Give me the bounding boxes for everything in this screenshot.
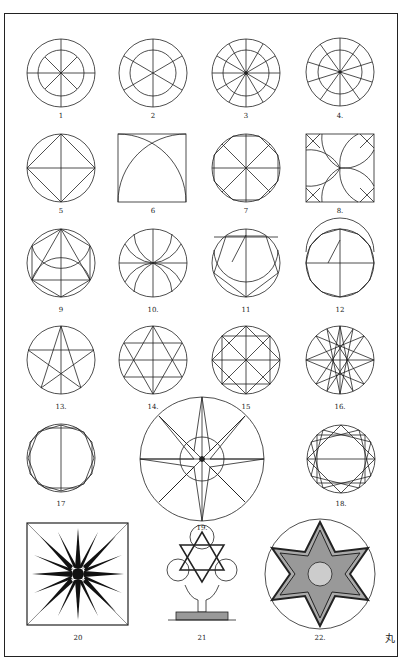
figure-5 bbox=[27, 134, 95, 202]
figure-19 bbox=[140, 397, 264, 521]
figure-label-5: 5 bbox=[59, 207, 63, 215]
figure-21 bbox=[167, 525, 237, 620]
figures-canvas bbox=[0, 0, 409, 664]
figure-9 bbox=[27, 229, 95, 297]
figure-label-4: 4. bbox=[337, 112, 344, 120]
figure-label-6: 6 bbox=[151, 207, 155, 215]
figure-label-11: 11 bbox=[242, 306, 251, 314]
figure-10 bbox=[119, 229, 187, 297]
figure-label-10: 10. bbox=[147, 306, 158, 314]
figure-label-3: 3 bbox=[244, 112, 248, 120]
figure-label-17: 17 bbox=[57, 500, 66, 508]
figure-7 bbox=[212, 134, 280, 202]
figure-14 bbox=[119, 326, 187, 394]
figure-label-13: 13. bbox=[55, 403, 66, 411]
figure-label-12: 12 bbox=[336, 306, 345, 314]
figure-4 bbox=[306, 38, 374, 106]
artist-monogram: 丸 bbox=[385, 630, 395, 645]
figure-label-18: 18. bbox=[335, 500, 346, 508]
figure-label-7: 7 bbox=[244, 207, 248, 215]
figure-12 bbox=[306, 218, 374, 297]
figure-label-22: 22. bbox=[314, 634, 325, 642]
figure-label-16: 16. bbox=[334, 403, 345, 411]
figure-label-19: 19. bbox=[196, 524, 207, 532]
figure-13 bbox=[27, 326, 95, 394]
figure-15 bbox=[212, 326, 280, 394]
figure-16 bbox=[306, 326, 374, 394]
figure-11 bbox=[212, 229, 280, 297]
figure-8 bbox=[306, 134, 374, 202]
figure-22 bbox=[265, 519, 375, 629]
figure-label-14: 14. bbox=[147, 403, 158, 411]
figure-label-20: 20 bbox=[74, 634, 83, 642]
figure-label-8: 8. bbox=[337, 207, 344, 215]
figure-label-9: 9 bbox=[59, 306, 63, 314]
figure-20 bbox=[27, 523, 128, 625]
figure-1 bbox=[27, 39, 95, 107]
figure-17 bbox=[27, 424, 95, 492]
figure-label-21: 21 bbox=[198, 634, 207, 642]
figure-18 bbox=[307, 425, 375, 493]
figure-6 bbox=[118, 134, 186, 202]
figure-label-15: 15 bbox=[242, 403, 251, 411]
figure-label-2: 2 bbox=[151, 112, 155, 120]
figure-3 bbox=[212, 39, 280, 107]
figure-label-1: 1 bbox=[59, 112, 63, 120]
figure-2 bbox=[119, 39, 187, 107]
